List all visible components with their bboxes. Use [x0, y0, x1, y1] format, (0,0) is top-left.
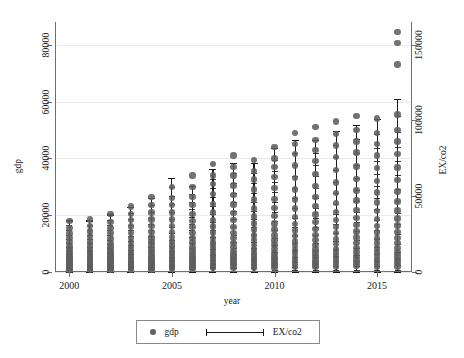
legend-label-gdp: gdp: [165, 327, 179, 337]
error-bar-cap: [209, 272, 216, 273]
legend-label-ex-co2: EX/co2: [273, 327, 302, 337]
y-tick-label-left: 80000: [41, 45, 51, 70]
error-bar-cap: [394, 272, 401, 273]
legend-item-ex-co2: EX/co2: [206, 327, 302, 337]
chart-figure: gdp EX/co2 year gdp EX/co2 0200004000060…: [0, 0, 464, 358]
x-tick-label: 2005: [162, 280, 182, 291]
error-bar-cap: [312, 272, 319, 273]
x-tick-label: 2000: [59, 280, 79, 291]
y-tick-label-right: 50000: [414, 171, 424, 196]
y-tick-label-left: 20000: [41, 215, 51, 240]
x-tick: [275, 272, 276, 277]
error-bar-cap: [230, 272, 237, 273]
legend: gdp EX/co2: [136, 320, 320, 344]
error-bar-cap: [353, 272, 360, 273]
y-tick-label-right: 0: [414, 267, 424, 272]
error-bar-cap: [189, 272, 196, 273]
y-tick-label-left: 40000: [41, 158, 51, 183]
plot-frame: [55, 22, 412, 272]
legend-item-gdp: gdp: [150, 327, 179, 337]
y-tick-label-right: 150000: [414, 15, 424, 45]
x-tick: [172, 272, 173, 277]
x-tick: [69, 272, 70, 277]
legend-circle-marker-icon: [150, 329, 156, 335]
error-bar-cap: [333, 272, 340, 273]
y-tick-label-right: 100000: [414, 91, 424, 121]
x-tick: [377, 272, 378, 277]
y-tick-label-left: 0: [41, 272, 51, 277]
y-tick-label-left: 60000: [41, 102, 51, 127]
y-axis-title-left: gdp: [13, 159, 23, 173]
legend-errorbar-marker-icon: [206, 329, 264, 336]
error-bar-cap: [292, 272, 299, 273]
x-tick-label: 2010: [265, 280, 285, 291]
error-bar-cap: [251, 272, 258, 273]
x-axis-title: year: [0, 296, 464, 306]
y-axis-title-right: EX/co2: [438, 145, 448, 174]
x-tick-label: 2015: [367, 280, 387, 291]
